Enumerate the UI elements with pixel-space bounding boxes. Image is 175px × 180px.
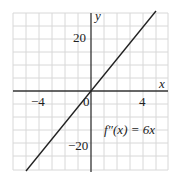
x-tick-neg4: −4 bbox=[31, 94, 45, 109]
y-tick-20: 20 bbox=[73, 30, 86, 45]
y-tick-neg20: −20 bbox=[68, 138, 88, 153]
x-tick-0: 0 bbox=[83, 94, 90, 109]
y-axis-label: y bbox=[93, 8, 101, 23]
chart: y x −4 0 4 20 −20 f″(x) = 6x bbox=[0, 0, 175, 180]
equation-label: f″(x) = 6x bbox=[104, 122, 155, 137]
x-tick-4: 4 bbox=[139, 94, 146, 109]
x-axis-label: x bbox=[158, 76, 165, 91]
